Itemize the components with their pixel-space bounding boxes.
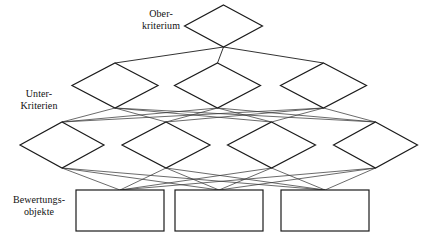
criterion-node-k7[interactable]	[334, 122, 418, 168]
criterion-node-k0[interactable]	[185, 5, 263, 47]
evaluation-object-box-b2[interactable]	[281, 190, 369, 231]
node-layer	[20, 5, 418, 231]
edge-k4-b0	[62, 168, 120, 190]
evaluation-object-box-b1[interactable]	[175, 190, 263, 231]
evaluation-object-box-b0[interactable]	[76, 190, 164, 231]
criterion-node-k4[interactable]	[20, 122, 104, 168]
criterion-node-k2[interactable]	[175, 63, 261, 108]
row-label-unterkriterien: Unter- Kriterien	[4, 88, 74, 112]
edge-k0-k2	[218, 47, 224, 63]
criterion-node-k1[interactable]	[72, 63, 158, 108]
criterion-node-k5[interactable]	[122, 122, 210, 168]
criterion-node-k6[interactable]	[228, 122, 316, 168]
edge-k0-k1	[115, 47, 224, 63]
edge-k0-k3	[224, 47, 324, 63]
diagram-canvas: Ober- kriterium Unter- Kriterien Bewertu…	[0, 0, 430, 240]
row-label-oberkriterium: Ober- kriterium	[128, 8, 194, 32]
row-label-bewertungsobjekte: Bewertungs- objekte	[0, 194, 78, 218]
criterion-node-k3[interactable]	[281, 63, 367, 108]
edge-k7-b1	[219, 168, 376, 190]
